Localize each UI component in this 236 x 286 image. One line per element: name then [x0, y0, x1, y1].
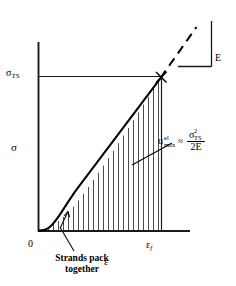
fraction-numerator: σ2TS — [187, 130, 205, 140]
strands-pack-line1: Strands pack — [55, 253, 109, 263]
modulus-dashed-extension — [161, 27, 197, 78]
fraction-denominator: 2E — [187, 142, 205, 152]
energy-subscript: max — [164, 142, 175, 149]
modulus-label: E — [215, 53, 221, 63]
energy-symbol: u — [158, 135, 163, 146]
numerator-subscript: TS — [194, 135, 202, 142]
stress-strain-diagram: σTS σ ε 0 εf E Strands pack together uel… — [0, 0, 236, 286]
strands-pack-line2: together — [65, 264, 99, 274]
epsilon-f-tick-label: εf — [146, 240, 152, 252]
energy-symbol-group: uelmax — [158, 136, 174, 146]
energy-supsub: elmax — [164, 135, 175, 149]
approx-sign: ≈ — [177, 137, 184, 146]
y-axis-label: σ — [11, 142, 17, 153]
elastic-energy-formula: uelmax ≈ σ2TS 2E — [158, 130, 205, 152]
origin-label: 0 — [28, 239, 33, 249]
epsilon-f-subscript: f — [150, 244, 152, 252]
numerator-supsub: 2TS — [194, 128, 202, 142]
sigma-ts-tick-label: σTS — [6, 68, 20, 80]
numerator-sigma-group: σ2TS — [189, 129, 203, 140]
energy-fraction: σ2TS 2E — [187, 130, 205, 152]
sigma-ts-subscript: TS — [11, 72, 20, 80]
strands-pack-annotation: Strands pack together — [46, 253, 118, 275]
